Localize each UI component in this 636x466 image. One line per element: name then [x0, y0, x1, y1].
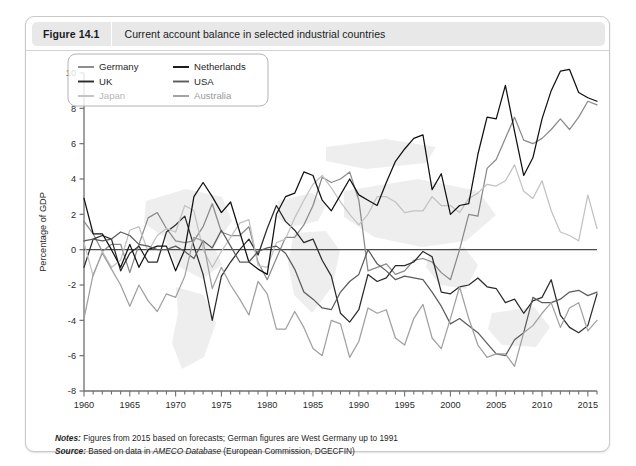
svg-text:2015: 2015 — [578, 400, 598, 410]
svg-text:2010: 2010 — [532, 400, 552, 410]
page-root: Figure 14.1 Current account balance in s… — [0, 0, 636, 466]
series-line-australia — [84, 237, 597, 366]
legend-label-japan: Japan — [99, 90, 125, 101]
legend-label-uk: UK — [99, 76, 113, 87]
svg-text:0: 0 — [71, 245, 76, 255]
svg-text:1980: 1980 — [257, 400, 277, 410]
svg-text:-4: -4 — [68, 316, 76, 326]
svg-text:-2: -2 — [68, 280, 76, 290]
svg-text:4: 4 — [71, 174, 76, 184]
source-line: Source: Based on data in AMECO Database … — [55, 445, 595, 458]
svg-text:1985: 1985 — [303, 400, 323, 410]
svg-text:-8: -8 — [68, 386, 76, 396]
figure-title: Current account balance in selected indu… — [112, 28, 386, 40]
notes-label: Notes: — [55, 433, 81, 443]
svg-text:1995: 1995 — [394, 400, 414, 410]
figure-card: Figure 14.1 Current account balance in s… — [25, 16, 610, 452]
svg-text:-6: -6 — [68, 351, 76, 361]
notes-line: Notes: Figures from 2015 based on foreca… — [55, 432, 595, 445]
line-chart: -8-6-4-202468101960196519701975198019851… — [26, 51, 609, 421]
legend-label-netherlands: Netherlands — [194, 61, 246, 72]
legend-label-australia: Australia — [194, 90, 232, 101]
chart-legend: GermanyNetherlandsUKUSAJapanAustralia — [68, 54, 268, 106]
chart-area: -8-6-4-202468101960196519701975198019851… — [26, 51, 609, 421]
legend-label-usa: USA — [194, 76, 214, 87]
svg-text:1965: 1965 — [120, 400, 140, 410]
legend-label-germany: Germany — [99, 61, 139, 72]
svg-text:2: 2 — [71, 210, 76, 220]
source-label: Source: — [55, 446, 86, 456]
svg-text:1970: 1970 — [165, 400, 185, 410]
source-pre: Based on data in — [86, 446, 153, 456]
svg-text:1990: 1990 — [349, 400, 369, 410]
notes-text: Figures from 2015 based on forecasts; Ge… — [81, 433, 398, 443]
svg-text:Percentage of GDP: Percentage of GDP — [38, 192, 48, 272]
source-database-name: AMECO Database — [153, 446, 221, 456]
source-post: (European Commission, DGECFIN) — [221, 446, 355, 456]
svg-text:2005: 2005 — [486, 400, 506, 410]
svg-text:1960: 1960 — [74, 400, 94, 410]
figure-number: Figure 14.1 — [32, 28, 111, 40]
series-line-germany — [84, 101, 597, 279]
figure-header: Figure 14.1 Current account balance in s… — [32, 22, 605, 46]
figure-notes: Notes: Figures from 2015 based on foreca… — [55, 432, 595, 458]
svg-text:6: 6 — [71, 139, 76, 149]
figure-body: -8-6-4-202468101960196519701975198019851… — [26, 50, 609, 451]
svg-text:2000: 2000 — [440, 400, 460, 410]
svg-text:1975: 1975 — [211, 400, 231, 410]
